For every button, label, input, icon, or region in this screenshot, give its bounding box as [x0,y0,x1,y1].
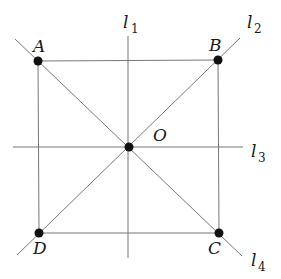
label-B: B [208,35,222,55]
label-l4: l 4 [251,250,266,274]
point-A [34,57,43,66]
point-C [215,229,224,238]
point-B [214,56,223,65]
svg-text:3: 3 [258,151,266,165]
label-D: D [32,238,47,258]
svg-text:l: l [247,12,252,32]
svg-text:l: l [251,250,256,270]
svg-text:2: 2 [254,22,262,36]
svg-text:1: 1 [131,22,139,36]
label-C: C [208,238,221,258]
label-l2: l 2 [247,12,262,36]
label-O: O [153,125,167,145]
svg-text:l: l [123,12,128,32]
label-l3: l 3 [251,141,266,165]
svg-text:l: l [251,141,256,161]
svg-text:4: 4 [258,260,266,274]
point-O [125,143,134,152]
label-A: A [31,36,45,56]
point-D [35,229,44,238]
square-symmetry-diagram: A B C D O l 1 l 2 l 3 l 4 [0,0,281,279]
label-l1: l 1 [123,12,139,36]
